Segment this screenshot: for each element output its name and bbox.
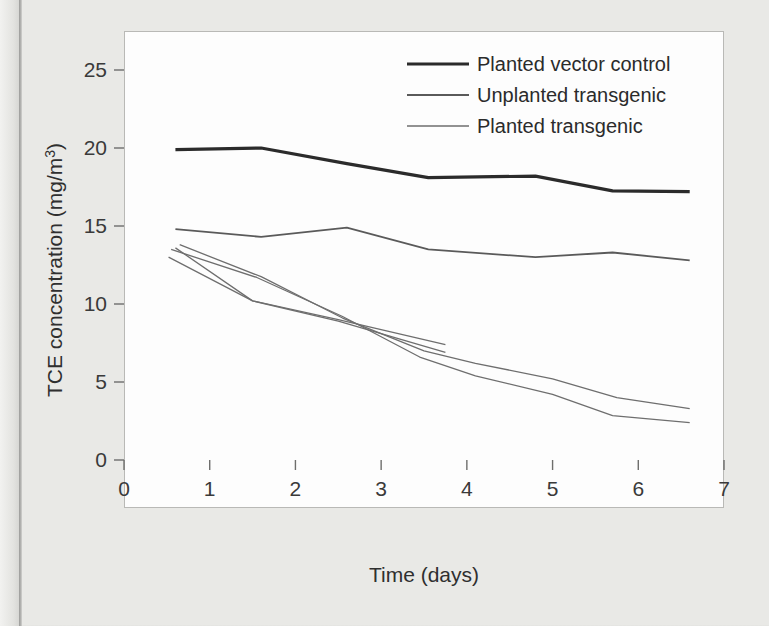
x-tick-label: 6 — [632, 477, 644, 500]
x-tick-label: 5 — [547, 477, 559, 500]
y-axis-title: TCE concentration (mg/m3) — [42, 143, 66, 397]
x-tick-label: 1 — [204, 477, 216, 500]
x-tick-label: 0 — [118, 477, 130, 500]
series-line — [175, 148, 689, 192]
y-axis-tick-labels: 0510152025 — [84, 58, 107, 471]
x-tick-label: 3 — [375, 477, 387, 500]
x-axis-tick-labels: 01234567 — [118, 477, 730, 500]
data-series-group — [169, 148, 690, 423]
svg-text:TCE concentration (mg/m3): TCE concentration (mg/m3) — [42, 143, 66, 397]
x-tick-label: 2 — [290, 477, 302, 500]
series-line — [180, 245, 690, 409]
x-axis-title: Time (days) — [369, 563, 479, 586]
tce-concentration-line-chart: 0510152025 01234567 Planted vector contr… — [0, 0, 769, 626]
y-tick-label: 10 — [84, 292, 107, 315]
series-line — [175, 228, 689, 261]
y-axis-ticks — [114, 70, 124, 460]
y-tick-label: 20 — [84, 136, 107, 159]
chart-legend: Planted vector controlUnplanted transgen… — [407, 53, 670, 137]
x-tick-label: 4 — [461, 477, 473, 500]
y-axis-title-main: TCE concentration (mg/m — [43, 158, 66, 397]
y-tick-label: 5 — [95, 370, 107, 393]
y-tick-label: 15 — [84, 214, 107, 237]
y-tick-label: 0 — [95, 448, 107, 471]
legend-label: Planted transgenic — [477, 115, 643, 137]
y-axis-title-superscript: 3 — [42, 150, 58, 158]
legend-label: Planted vector control — [477, 53, 670, 75]
series-line — [175, 248, 445, 345]
y-tick-label: 25 — [84, 58, 107, 81]
x-tick-label: 7 — [718, 477, 730, 500]
chart-canvas: 0510152025 01234567 Planted vector contr… — [0, 0, 769, 626]
y-axis-title-tail: ) — [43, 143, 66, 150]
x-axis-ticks — [124, 460, 724, 470]
legend-label: Unplanted transgenic — [477, 84, 666, 106]
figure-page: 0510152025 01234567 Planted vector contr… — [0, 0, 769, 626]
